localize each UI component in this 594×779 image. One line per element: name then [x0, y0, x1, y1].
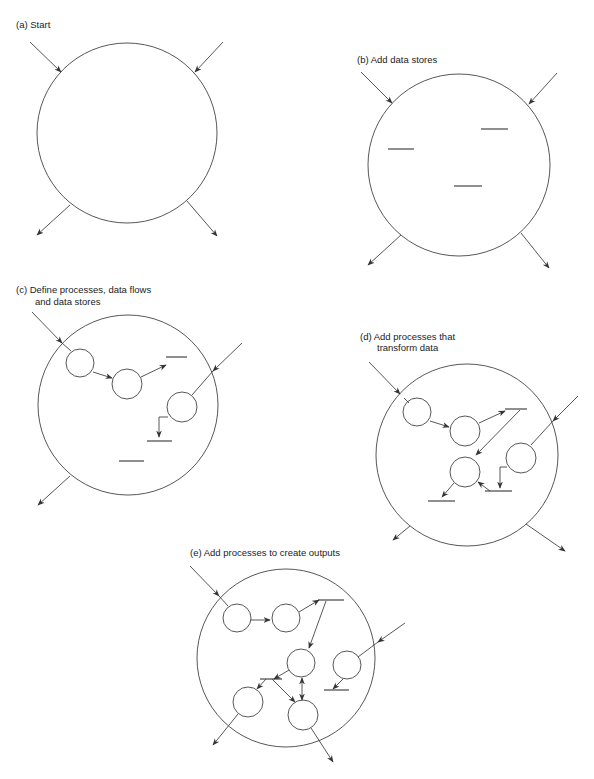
input-arrow [32, 312, 62, 343]
data-flow-arrow [257, 679, 266, 689]
data-flow-arrow [430, 421, 449, 427]
panel-c-label-line2: and data stores [35, 296, 101, 307]
data-flow-arrow [93, 372, 112, 378]
panel-a-label: (a) Start [16, 19, 51, 30]
data-flow-arrow [309, 601, 326, 648]
data-flow-arrow [159, 417, 168, 437]
data-flow-arrow [442, 483, 454, 497]
panel-e: (e) Add processes to create outputs [190, 547, 405, 762]
panel-d-label-line1: (d) Add processes that [360, 331, 455, 342]
flow-line [531, 421, 553, 445]
output-arrow [187, 201, 217, 236]
process-circle [112, 369, 142, 399]
output-arrow [526, 524, 565, 551]
input-arrow [361, 72, 392, 103]
panel-c-label-line1: (c) Define processes, data flows [16, 284, 151, 295]
data-flow-arrow [272, 679, 295, 702]
process-circle [450, 416, 480, 446]
panel-d-label-line2: transform data [377, 342, 439, 353]
process-circle [272, 604, 300, 632]
output-arrow [37, 205, 70, 235]
panel-b-label: (b) Add data stores [357, 54, 438, 65]
output-arrow [521, 233, 549, 268]
input-arrow [30, 42, 61, 72]
data-flow-arrow [141, 365, 166, 377]
output-arrow [393, 526, 410, 540]
system-boundary-circle [368, 74, 550, 256]
data-flow-diagram-figure: (a) Start (b) Add data stores (c) Define… [0, 0, 594, 779]
process-circle [450, 457, 480, 487]
process-circle [287, 649, 315, 677]
process-circle [167, 392, 197, 422]
system-boundary-circle [376, 364, 558, 546]
data-flow-arrow [333, 679, 343, 689]
data-flow-arrow [274, 670, 289, 679]
input-arrow [378, 623, 405, 642]
input-arrow [529, 73, 557, 104]
panel-d: (d) Add processes that transform data [360, 331, 578, 551]
process-circle [506, 443, 536, 473]
process-circle [66, 349, 94, 377]
system-boundary-circle [37, 43, 217, 223]
panel-c: (c) Define processes, data flows and dat… [16, 284, 242, 505]
output-arrow [38, 476, 70, 505]
flow-line [62, 343, 71, 351]
data-flow-arrow [478, 482, 490, 491]
input-arrow [190, 566, 219, 596]
panel-e-label: (e) Add processes to create outputs [190, 547, 340, 558]
input-arrow [369, 362, 400, 394]
process-circle [233, 687, 263, 717]
system-boundary-circle [38, 315, 218, 495]
data-flow-arrow [299, 600, 319, 612]
input-arrow [553, 396, 578, 421]
data-flow-arrow [500, 467, 507, 488]
process-circle [333, 651, 361, 679]
panel-b: (b) Add data stores [357, 54, 557, 268]
input-arrow [213, 343, 242, 371]
data-flow-arrow [476, 410, 520, 455]
output-arrow [213, 714, 238, 745]
data-flow-arrow [479, 411, 505, 423]
process-circle [288, 700, 318, 730]
flow-line [192, 371, 213, 395]
output-arrow [311, 728, 333, 762]
process-circle [223, 604, 251, 632]
input-arrow [195, 42, 223, 72]
system-boundary-circle [197, 569, 375, 747]
process-circle [403, 398, 431, 426]
flow-line [219, 596, 228, 606]
output-arrow [368, 235, 401, 265]
panel-a: (a) Start [16, 19, 223, 236]
